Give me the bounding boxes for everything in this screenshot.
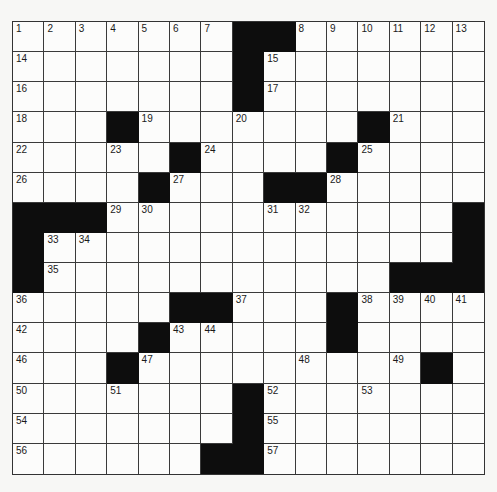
grid-cell[interactable] (76, 112, 107, 142)
grid-cell[interactable] (296, 52, 327, 82)
grid-cell[interactable]: 42 (13, 323, 44, 353)
grid-cell[interactable] (264, 323, 295, 353)
grid-cell[interactable] (139, 263, 170, 293)
grid-cell[interactable] (107, 444, 138, 474)
grid-cell[interactable] (44, 293, 75, 323)
grid-cell[interactable] (44, 173, 75, 203)
grid-cell[interactable]: 57 (264, 444, 295, 474)
grid-cell[interactable] (390, 323, 421, 353)
grid-cell[interactable] (201, 52, 232, 82)
grid-cell[interactable] (390, 203, 421, 233)
grid-cell[interactable]: 18 (13, 112, 44, 142)
grid-cell[interactable] (327, 384, 358, 414)
grid-cell[interactable] (107, 293, 138, 323)
grid-cell[interactable]: 20 (233, 112, 264, 142)
grid-cell[interactable] (233, 203, 264, 233)
grid-cell[interactable]: 28 (327, 173, 358, 203)
grid-cell[interactable] (327, 52, 358, 82)
grid-cell[interactable] (390, 82, 421, 112)
grid-cell[interactable] (139, 233, 170, 263)
grid-cell[interactable] (233, 353, 264, 383)
grid-cell[interactable]: 44 (201, 323, 232, 353)
grid-cell[interactable] (201, 203, 232, 233)
grid-cell[interactable]: 48 (296, 353, 327, 383)
grid-cell[interactable] (201, 112, 232, 142)
grid-cell[interactable] (358, 353, 389, 383)
grid-cell[interactable] (296, 233, 327, 263)
grid-cell[interactable] (201, 384, 232, 414)
grid-cell[interactable] (76, 384, 107, 414)
grid-cell[interactable] (358, 414, 389, 444)
grid-cell[interactable]: 12 (421, 22, 452, 52)
grid-cell[interactable]: 7 (201, 22, 232, 52)
grid-cell[interactable] (170, 233, 201, 263)
grid-cell[interactable] (327, 82, 358, 112)
grid-cell[interactable] (233, 143, 264, 173)
grid-cell[interactable]: 46 (13, 353, 44, 383)
grid-cell[interactable] (201, 263, 232, 293)
grid-cell[interactable] (44, 353, 75, 383)
grid-cell[interactable] (233, 323, 264, 353)
grid-cell[interactable] (421, 233, 452, 263)
grid-cell[interactable]: 19 (139, 112, 170, 142)
grid-cell[interactable]: 27 (170, 173, 201, 203)
grid-cell[interactable] (139, 52, 170, 82)
grid-cell[interactable] (44, 384, 75, 414)
grid-cell[interactable]: 17 (264, 82, 295, 112)
grid-cell[interactable]: 47 (139, 353, 170, 383)
grid-cell[interactable]: 11 (390, 22, 421, 52)
grid-cell[interactable] (453, 323, 484, 353)
grid-cell[interactable] (44, 52, 75, 82)
grid-cell[interactable] (170, 263, 201, 293)
grid-cell[interactable] (296, 384, 327, 414)
grid-cell[interactable] (233, 263, 264, 293)
grid-cell[interactable]: 2 (44, 22, 75, 52)
grid-cell[interactable] (76, 263, 107, 293)
grid-cell[interactable]: 51 (107, 384, 138, 414)
grid-cell[interactable]: 53 (358, 384, 389, 414)
grid-cell[interactable] (421, 203, 452, 233)
grid-cell[interactable] (170, 353, 201, 383)
grid-cell[interactable]: 39 (390, 293, 421, 323)
grid-cell[interactable]: 33 (44, 233, 75, 263)
grid-cell[interactable] (327, 414, 358, 444)
grid-cell[interactable] (201, 173, 232, 203)
grid-cell[interactable]: 9 (327, 22, 358, 52)
grid-cell[interactable] (390, 52, 421, 82)
grid-cell[interactable] (421, 143, 452, 173)
grid-cell[interactable]: 26 (13, 173, 44, 203)
grid-cell[interactable] (421, 384, 452, 414)
grid-cell[interactable]: 52 (264, 384, 295, 414)
grid-cell[interactable] (421, 112, 452, 142)
grid-cell[interactable] (421, 323, 452, 353)
grid-cell[interactable] (201, 414, 232, 444)
grid-cell[interactable] (139, 293, 170, 323)
grid-cell[interactable] (76, 82, 107, 112)
grid-cell[interactable] (107, 323, 138, 353)
grid-cell[interactable]: 56 (13, 444, 44, 474)
grid-cell[interactable] (107, 263, 138, 293)
grid-cell[interactable]: 35 (44, 263, 75, 293)
grid-cell[interactable] (170, 112, 201, 142)
grid-cell[interactable]: 49 (390, 353, 421, 383)
grid-cell[interactable]: 23 (107, 143, 138, 173)
grid-cell[interactable] (44, 323, 75, 353)
grid-cell[interactable] (358, 263, 389, 293)
grid-cell[interactable] (358, 173, 389, 203)
grid-cell[interactable] (170, 52, 201, 82)
grid-cell[interactable] (170, 203, 201, 233)
grid-cell[interactable] (107, 233, 138, 263)
grid-cell[interactable] (44, 143, 75, 173)
grid-cell[interactable] (76, 52, 107, 82)
grid-cell[interactable] (358, 203, 389, 233)
grid-cell[interactable] (453, 52, 484, 82)
grid-cell[interactable] (390, 384, 421, 414)
grid-cell[interactable]: 21 (390, 112, 421, 142)
grid-cell[interactable] (76, 323, 107, 353)
grid-cell[interactable] (76, 414, 107, 444)
grid-cell[interactable] (358, 82, 389, 112)
grid-cell[interactable] (453, 444, 484, 474)
grid-cell[interactable] (296, 143, 327, 173)
grid-cell[interactable] (453, 112, 484, 142)
grid-cell[interactable] (296, 82, 327, 112)
